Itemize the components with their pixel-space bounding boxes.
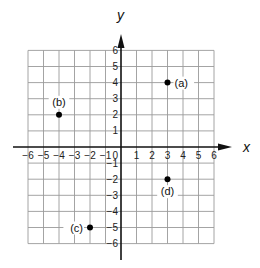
x-tick-label: 4 (180, 150, 186, 161)
coordinate-plane: xy −6−5−4−3−2−1123456−6−5−4−3−2−11234560… (0, 0, 260, 268)
y-tick-label: 1 (112, 125, 118, 136)
x-tick-label: −4 (53, 150, 65, 161)
x-tick-label: 2 (149, 150, 155, 161)
y-tick-label: 3 (112, 93, 118, 104)
x-tick-label: 3 (165, 150, 171, 161)
y-tick-label: −5 (107, 222, 119, 233)
y-tick-label: 5 (112, 61, 118, 72)
data-point (165, 176, 171, 182)
x-axis-arrow-icon (218, 144, 232, 151)
x-tick-label: −5 (38, 150, 50, 161)
y-tick-label: −3 (107, 190, 119, 201)
x-tick-label: −6 (22, 150, 34, 161)
y-axis-arrow-icon (118, 34, 125, 48)
data-point (56, 112, 62, 118)
point-label: (d) (161, 185, 174, 197)
y-tick-label: −6 (107, 238, 119, 249)
origin-label: 0 (112, 150, 118, 161)
y-tick-label: 6 (112, 45, 118, 56)
y-tick-label: 4 (112, 77, 118, 88)
y-tick-label: −2 (107, 174, 119, 185)
x-tick-label: −2 (84, 150, 96, 161)
x-tick-label: −3 (69, 150, 81, 161)
x-tick-label: 6 (211, 150, 217, 161)
x-tick-label: 1 (134, 150, 140, 161)
x-axis-label: x (242, 139, 251, 155)
axes: xy (13, 7, 251, 260)
y-tick-label: 2 (112, 109, 118, 120)
y-tick-label: −4 (107, 206, 119, 217)
point-label: (a) (175, 77, 188, 89)
point-label: (b) (52, 96, 65, 108)
x-tick-label: 5 (196, 150, 202, 161)
y-axis-label: y (116, 7, 125, 23)
data-point (87, 225, 93, 231)
point-label: (c) (70, 222, 83, 234)
data-point (165, 80, 171, 86)
